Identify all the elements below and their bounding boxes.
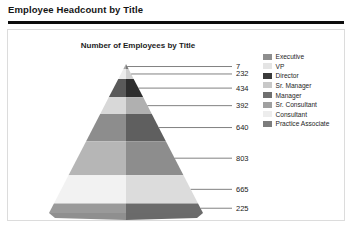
pyramid-bands: [49, 64, 203, 220]
data-value-label: 640: [236, 123, 249, 132]
legend-item-label: Consultant: [276, 110, 308, 119]
legend-item[interactable]: Sr. Consultant: [263, 100, 347, 109]
legend-item[interactable]: Executive: [263, 52, 347, 61]
legend-item[interactable]: Director: [263, 71, 347, 80]
pyramid-base-left-edge: [49, 213, 126, 220]
data-value-label: 232: [236, 69, 249, 78]
report-header: Employee Headcount by Title: [0, 0, 352, 26]
legend-swatch-icon: [263, 73, 272, 79]
legend-item[interactable]: VP: [263, 62, 347, 71]
legend-item-label: Director: [276, 71, 299, 80]
data-value-label: 225: [236, 204, 249, 213]
pyramid-band-left-face: [109, 79, 126, 97]
legend-item[interactable]: Consultant: [263, 109, 347, 118]
data-value-label: 665: [236, 185, 249, 194]
legend-swatch-icon: [263, 111, 272, 117]
legend-swatch-icon: [263, 63, 272, 69]
legend-item[interactable]: Manager: [263, 90, 347, 99]
legend-swatch-icon: [263, 82, 272, 88]
legend-swatch-icon: [263, 92, 272, 98]
legend-item-label: Manager: [276, 91, 302, 100]
pyramid-band-left-face: [118, 69, 126, 79]
pyramid-base-right-edge: [126, 213, 203, 220]
legend-swatch-icon: [263, 121, 272, 127]
legend-item-label: VP: [276, 62, 285, 71]
pyramid-band-right-face: [126, 203, 203, 213]
pyramid-band-left-face: [123, 64, 126, 69]
pyramid-band-left-face: [69, 141, 126, 175]
legend-item[interactable]: Practice Associate: [263, 119, 347, 128]
pyramid-band-left-face: [54, 175, 126, 203]
legend-swatch-icon: [263, 54, 272, 60]
pyramid-band-left-face: [100, 97, 126, 114]
chart-panel: Number of Employees by Title 72324343926…: [7, 29, 345, 221]
legend-item-label: Practice Associate: [276, 119, 330, 128]
pyramid-band-left-face: [86, 114, 126, 141]
chart-legend: Executive VP Director Sr. Manager Manage…: [263, 52, 347, 129]
legend-item-label: Executive: [276, 52, 305, 61]
data-value-label: 392: [236, 101, 249, 110]
legend-swatch-icon: [263, 102, 272, 108]
header-divider: [8, 21, 344, 24]
legend-item-label: Sr. Consultant: [276, 100, 317, 109]
page-title: Employee Headcount by Title: [8, 4, 143, 15]
legend-item-label: Sr. Manager: [276, 81, 312, 90]
pyramid-band-left-face: [49, 203, 126, 213]
data-value-label: 434: [236, 84, 249, 93]
data-value-label: 803: [236, 154, 249, 163]
pyramid-band-right-face: [126, 175, 198, 203]
legend-item[interactable]: Sr. Manager: [263, 81, 347, 90]
